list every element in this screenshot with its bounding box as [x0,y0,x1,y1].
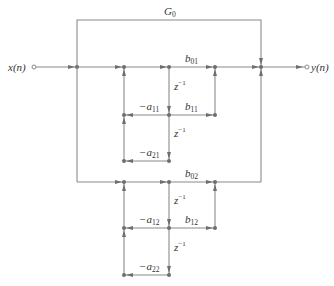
arrow-right-icon [296,65,303,69]
b02-label: b02 [185,167,198,181]
g0-label: G0 [164,5,176,19]
signal-flow-diagram: G0 x(n) y(n) [0,0,334,286]
input: x(n) [7,61,261,182]
delay-label: z−1 [173,126,186,139]
direct-path-g0: G0 [77,5,261,67]
a12-label: −a12 [139,213,160,227]
output-terminal [305,65,309,69]
a11-label: −a11 [139,100,159,114]
b11-label: b11 [185,100,198,114]
section-1: b01 z−1 −a11 b11 z−1 −a21 [115,52,217,163]
b12-label: b12 [185,213,198,227]
arrow-right-icon [252,65,259,69]
output-label: y(n) [310,61,329,74]
arrow-right-icon [68,65,75,69]
output: y(n) [252,58,329,182]
delay-label: z−1 [173,79,186,92]
arrow-down-icon [259,58,263,65]
input-terminal [32,65,36,69]
output-sum-node [259,65,263,69]
delay-label: z−1 [173,240,186,253]
arrow-up-icon [259,69,263,76]
a21-label: −a21 [139,146,160,160]
input-label: x(n) [7,61,26,74]
a22-label: −a22 [139,260,160,274]
b01-label: b01 [185,52,198,66]
section-2: b02 z−1 −a12 b12 z−1 −a22 [77,167,261,277]
delay-label: z−1 [173,193,186,206]
